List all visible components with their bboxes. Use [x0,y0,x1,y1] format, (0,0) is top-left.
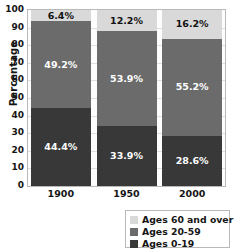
legend-item[interactable]: Ages 20-59 [130,226,225,237]
bar-segment-ages-20-59[interactable]: 55.2% [162,39,222,136]
plot-area: 44.4%49.2%6.4%33.9%53.9%12.2%28.6%55.2%1… [27,9,226,187]
legend-rows: Ages 60 and overAges 20-59Ages 0-19 [130,214,225,249]
segment-value-label: 49.2% [44,60,77,70]
segment-value-label: 28.6% [176,156,209,166]
legend-item-label: Ages 20-59 [142,227,201,237]
y-tick-label: 40 [2,111,24,120]
bar-segment-ages-0-19[interactable]: 28.6% [162,136,222,186]
y-tick-label: 60 [2,75,24,84]
legend-swatch-icon [130,228,138,236]
stacked-bar-chart: Percentage 1009080706050403020100 44.4%4… [0,0,234,249]
legend: Ages 60 and overAges 20-59Ages 0-19 [125,210,230,248]
x-tick-label: 1900 [31,189,91,199]
bar-segment-ages-60-over[interactable]: 16.2% [162,10,222,39]
bar-segment-ages-20-59[interactable]: 49.2% [31,21,91,108]
y-tick-label: 30 [2,128,24,137]
legend-item[interactable]: Ages 60 and over [130,214,225,225]
segment-value-label: 55.2% [176,82,209,92]
bar-segment-ages-60-over[interactable]: 12.2% [97,10,157,31]
legend-item-label: Ages 60 and over [142,215,233,225]
bar-group[interactable]: 44.4%49.2%6.4% [31,10,91,186]
segment-value-label: 16.2% [176,19,209,29]
y-tick-label: 100 [2,5,24,14]
bar-segment-ages-60-over[interactable]: 6.4% [31,10,91,21]
legend-item-label: Ages 0-19 [142,239,194,249]
x-tick-label: 2000 [162,189,222,199]
x-tick-label: 1950 [97,189,157,199]
segment-value-label: 44.4% [44,142,77,152]
segment-value-label: 6.4% [48,11,74,21]
segment-value-label: 53.9% [110,74,143,84]
bar-group[interactable]: 33.9%53.9%12.2% [97,10,157,186]
segment-value-label: 33.9% [110,151,143,161]
y-tick-label: 90 [2,23,24,32]
y-tick-label: 70 [2,58,24,67]
y-tick-label: 20 [2,146,24,155]
bar-segment-ages-0-19[interactable]: 33.9% [97,126,157,186]
bar-group[interactable]: 28.6%55.2%16.2% [162,10,222,186]
y-tick-label: 0 [2,181,24,190]
segment-value-label: 12.2% [110,16,143,26]
legend-swatch-icon [130,216,138,224]
bar-segment-ages-20-59[interactable]: 53.9% [97,31,157,126]
y-tick-label: 50 [2,93,24,102]
legend-swatch-icon [130,240,138,248]
y-tick-label: 80 [2,40,24,49]
y-tick-label: 10 [2,163,24,172]
legend-item[interactable]: Ages 0-19 [130,238,225,249]
bar-segment-ages-0-19[interactable]: 44.4% [31,108,91,186]
